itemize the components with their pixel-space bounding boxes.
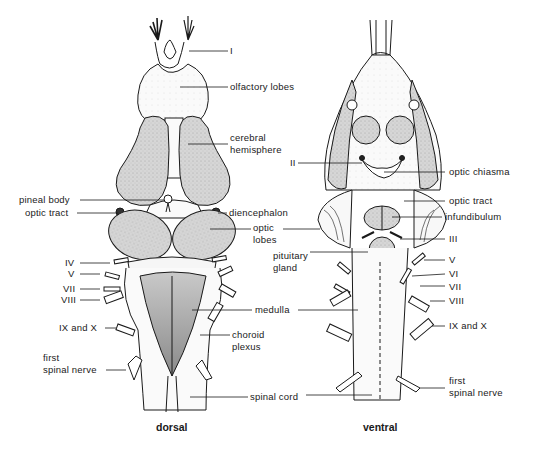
label-nerve-III: III [449,233,458,245]
label-cerebral-hemisphere-line2: hemisphere [230,144,282,156]
label-first-spinal-nerve-ventral-line1: first [449,375,465,387]
label-olfactory-nerve-I: I [230,45,233,57]
label-optic-tract-dorsal: optic tract [25,207,68,219]
label-nerve-V-ventral: V [449,254,456,266]
label-nerve-VII-dorsal: VII [63,283,75,295]
label-pituitary-gland-line2: gland [273,262,297,274]
olfactory-nerve-tufts [150,16,194,68]
label-nerve-VIII-dorsal: VIII [61,294,76,306]
label-infundibulum: infundibulum [445,211,501,223]
ventral-lobe-right [386,116,414,144]
label-nerve-IV: IV [65,257,74,269]
label-first-spinal-nerve-dorsal-line2: spinal nerve [43,364,97,376]
label-cerebral-hemisphere-line1: cerebral [230,132,266,144]
label-choroid-plexus-line1: choroid [232,329,265,341]
label-nerve-IX-X-ventral: IX and X [449,320,487,332]
label-nerve-IX-X-dorsal: IX and X [59,322,97,334]
label-pituitary-gland-line1: pituitary [273,250,308,262]
label-nerve-VII-ventral: VII [449,281,461,293]
label-optic-tract-ventral: optic tract [449,195,492,207]
ventral-view [318,20,446,400]
caption-ventral: ventral [363,421,397,433]
label-first-spinal-nerve-ventral-line2: spinal nerve [449,387,503,399]
label-first-spinal-nerve-dorsal-line1: first [43,352,59,364]
label-spinal-cord: spinal cord [250,391,298,403]
olfactory-lobes [138,64,209,120]
label-pineal-body: pineal body [19,194,70,206]
label-nerve-VIII-ventral: VIII [449,295,464,307]
pineal-body [164,195,172,203]
label-nerve-II: II [290,157,296,169]
label-nerve-VI: VI [449,268,458,280]
dorsal-view [102,16,242,412]
ventral-lobe-left [352,116,380,144]
label-optic-chiasma: optic chiasma [449,166,510,178]
label-optic-lobes-line2: lobes [253,234,277,246]
cerebral-hemisphere-left [116,116,169,205]
label-nerve-V-dorsal: V [68,268,75,280]
label-medulla: medulla [255,304,290,316]
caption-dorsal: dorsal [156,421,188,433]
label-optic-lobes-line1: optic [253,222,274,234]
label-olfactory-lobes: olfactory lobes [230,81,294,93]
label-diencephalon: diencephalon [229,207,288,219]
label-choroid-plexus-line2: plexus [232,341,261,353]
cerebral-hemisphere-right [179,116,230,205]
ventral-optic-lobe-left [318,190,352,248]
